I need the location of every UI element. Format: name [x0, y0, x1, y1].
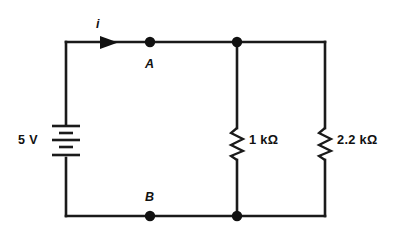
current-label: i [96, 18, 99, 31]
node-dot-bottom-junction [232, 211, 242, 221]
node-dot-b [145, 211, 155, 221]
node-b-label: B [145, 191, 154, 204]
current-arrow-icon [100, 36, 118, 49]
resistor-r2-symbol [319, 128, 331, 160]
battery-voltage-label: 5 V [18, 134, 38, 147]
node-dot-a [145, 37, 155, 47]
node-a-label: A [145, 58, 154, 71]
circuit-diagram: i A B 5 V 1 kΩ 2.2 kΩ [0, 0, 410, 248]
resistor-r2-label: 2.2 kΩ [337, 134, 378, 147]
resistor-r1-symbol [231, 128, 243, 160]
node-dot-top-junction [232, 37, 242, 47]
circuit-schematic-canvas [0, 0, 410, 248]
battery-symbol [52, 126, 80, 155]
resistor-r1-label: 1 kΩ [249, 134, 278, 147]
